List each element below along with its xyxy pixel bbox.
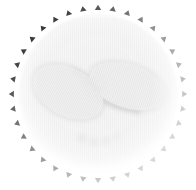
border-tooth xyxy=(124,10,130,16)
border-tooth xyxy=(66,172,72,178)
border-tooth xyxy=(66,10,72,16)
border-tooth xyxy=(9,91,14,97)
baby-feet-icon xyxy=(18,18,178,168)
border-tooth xyxy=(182,91,187,97)
border-tooth xyxy=(109,176,115,182)
badge-graphic xyxy=(0,0,196,190)
border-tooth xyxy=(80,176,86,182)
baby-feet-badge: Scalloped circular badge with faint gray… xyxy=(0,0,196,190)
border-tooth xyxy=(10,76,16,82)
border-tooth xyxy=(10,105,16,111)
border-tooth xyxy=(180,76,186,82)
border-tooth xyxy=(95,178,101,183)
border-tooth xyxy=(95,5,101,10)
border-tooth xyxy=(80,6,86,12)
border-tooth xyxy=(180,105,186,111)
border-tooth xyxy=(109,6,115,12)
border-tooth xyxy=(124,172,130,178)
